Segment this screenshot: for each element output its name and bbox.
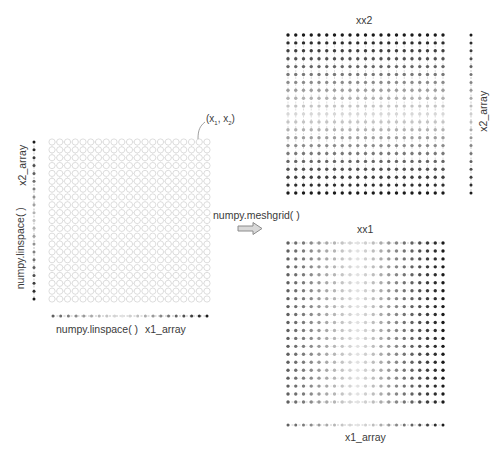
x-axis-func-label: numpy.linspace( ) (56, 324, 138, 335)
x-axis-array-label: x1_array (145, 324, 186, 335)
x1-array-axis (287, 424, 445, 427)
meshgrid-label: numpy.meshgrid( ) (213, 210, 300, 221)
xx2-title: xx2 (356, 15, 372, 26)
x1-linspace-axis (52, 315, 209, 318)
xx2-grid (286, 33, 444, 194)
point-leader-line (198, 122, 205, 139)
xx1-title: xx1 (357, 224, 373, 235)
meshgrid-arrow-icon (238, 223, 262, 235)
x2-linspace-axis (33, 141, 36, 301)
point-label: (x1, x2) (206, 114, 235, 126)
meshgrid-diagram (0, 0, 502, 453)
xx1-grid (286, 241, 444, 403)
xx2-side-label: x2_array (478, 86, 489, 136)
x2-array-axis (470, 34, 473, 195)
left-plane-grid (49, 139, 210, 302)
xx1-bottom-label: x1_array (345, 432, 386, 443)
y-axis-func-label: numpy.linspace( ) (15, 203, 26, 293)
y-axis-array-label: x2_array (17, 143, 28, 187)
